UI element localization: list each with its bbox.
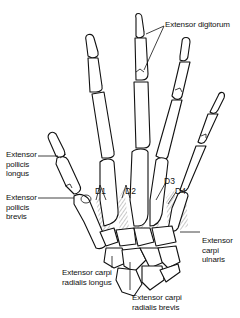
label-d3: D3 (164, 176, 175, 186)
label-d2: D2 (125, 186, 136, 196)
label-extensor-carpi-radialis-longus: Extensor carpi radialis longus (62, 268, 112, 287)
label-d4: D4 (175, 186, 186, 196)
label-extensor-pollicis-brevis: Extensor pollicis brevis (6, 193, 37, 222)
label-extensor-pollicis-longus: Extensor pollicis longus (6, 150, 37, 179)
label-extensor-digitorum: Extensor digitorum (165, 20, 230, 30)
label-extensor-carpi-radialis-brevis: Extensor carpi radialis brevis (132, 293, 182, 312)
label-extensor-carpi-ulnaris: Extensor carpi ulnaris (202, 236, 233, 265)
label-d1: D1 (95, 186, 106, 196)
